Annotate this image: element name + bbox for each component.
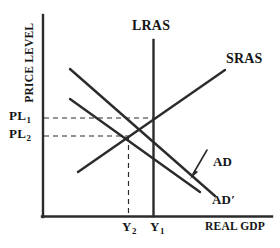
pl2-tick-label: PL2 [9,127,31,140]
curves-group [70,40,225,216]
y1-base: Y [150,219,160,234]
sras-label: SRAS [226,52,263,66]
pl1-subscript: 1 [27,115,32,125]
ad-prime-curve [70,99,200,192]
pl2-base: PL [9,126,26,141]
pl1-base: PL [9,108,26,123]
y2-tick-label: Y2 [122,220,136,233]
y-axis-label: PRICE LEVEL [24,15,36,111]
y2-subscript: 2 [132,226,137,236]
ad-as-diagram: PRICE LEVEL REAL GDP LRAS SRAS AD AD′ PL… [0,0,280,248]
ad-prime-label: AD′ [212,193,235,206]
pl1-tick-label: PL1 [9,109,31,122]
y2-base: Y [122,219,132,234]
guide-lines-group [44,118,154,216]
diagram-canvas [0,0,280,248]
ad-curve [70,69,215,196]
lras-label: LRAS [132,19,170,33]
y1-tick-label: Y1 [150,220,164,233]
x-axis-label: REAL GDP [205,221,265,233]
ad-label: AD [213,155,232,168]
ad-shift-arrow [190,150,207,179]
y1-subscript: 1 [160,226,165,236]
pl2-subscript: 2 [27,133,32,143]
